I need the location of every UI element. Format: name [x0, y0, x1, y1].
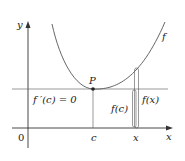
point-label: P: [88, 75, 96, 86]
fx-bracket: [135, 68, 139, 128]
x-axis: [12, 126, 173, 131]
curve-f: [52, 22, 165, 89]
y-axis: [26, 21, 31, 148]
y-axis-label: y: [16, 19, 23, 30]
diagram-canvas: y x 0 c x f P f ′(c) = 0 f(c) f(x): [0, 0, 185, 161]
y-axis-arrow-icon: [26, 21, 31, 28]
curve-label: f: [161, 31, 168, 42]
point-p: [91, 87, 95, 91]
x-tick-label: x: [133, 132, 139, 143]
fc-label: f(c): [110, 103, 128, 114]
derivative-annotation: f ′(c) = 0: [32, 94, 77, 105]
x-axis-arrow-icon: [166, 126, 173, 131]
x-axis-label: x: [166, 131, 172, 142]
fx-label: f(x): [141, 94, 159, 105]
origin-label: 0: [18, 132, 24, 143]
c-tick-label: c: [91, 132, 97, 143]
